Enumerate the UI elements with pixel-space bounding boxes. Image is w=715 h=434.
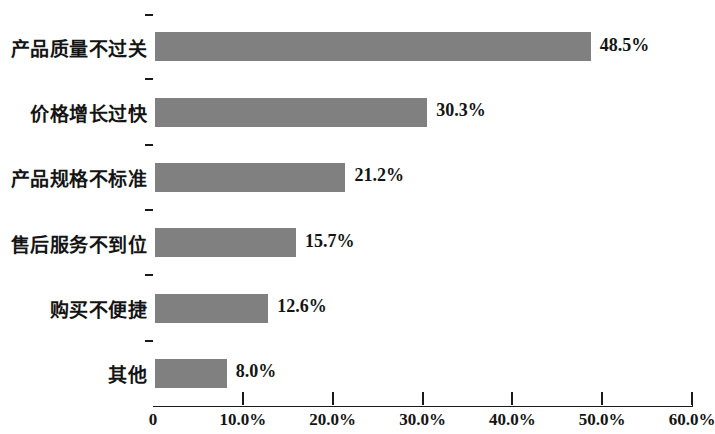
value-label: 8.0%: [236, 361, 277, 382]
category-label: 产品规格不标准: [0, 164, 147, 191]
plot-area: [153, 14, 692, 406]
category-label: 售后服务不到位: [0, 230, 147, 257]
y-axis-tick: [145, 340, 153, 342]
category-label: 购买不便捷: [0, 295, 147, 322]
category-label: 其他: [0, 360, 147, 387]
x-axis-tick-label: 60.0%: [669, 410, 715, 430]
value-label: 48.5%: [600, 35, 650, 56]
x-axis-tick: [511, 392, 513, 405]
x-axis-tick-label: 30.0%: [399, 410, 446, 430]
x-axis-tick: [332, 392, 334, 405]
value-label: 15.7%: [305, 231, 355, 252]
x-axis-tick-label: 50.0%: [579, 410, 626, 430]
category-label: 产品质量不过关: [0, 34, 147, 61]
value-label: 21.2%: [354, 165, 404, 186]
x-axis-tick-label: 0: [149, 410, 158, 430]
bar-chart: 010.0%20.0%30.0%40.0%50.0%60.0% 产品质量不过关价…: [0, 0, 715, 434]
bar: [155, 32, 591, 61]
y-axis-tick: [145, 144, 153, 146]
bar: [155, 294, 268, 323]
bar: [155, 98, 427, 127]
x-axis-tick: [242, 392, 244, 405]
value-label: 12.6%: [277, 296, 327, 317]
y-axis-tick: [145, 78, 153, 80]
y-axis-tick: [145, 274, 153, 276]
x-axis-tick-label: 40.0%: [489, 410, 536, 430]
x-axis-tick: [422, 392, 424, 405]
x-axis-tick-label: 10.0%: [219, 410, 266, 430]
bar: [155, 359, 227, 388]
bar: [155, 163, 345, 192]
x-axis-tick-label: 20.0%: [309, 410, 356, 430]
x-axis-tick: [691, 392, 693, 405]
bar: [155, 228, 296, 257]
x-axis-tick: [601, 392, 603, 405]
value-label: 30.3%: [436, 100, 486, 121]
y-axis-tick: [145, 14, 153, 16]
y-axis-tick: [145, 209, 153, 211]
category-label: 价格增长过快: [0, 99, 147, 126]
